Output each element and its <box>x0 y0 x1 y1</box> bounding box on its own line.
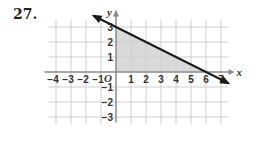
y-tick-label: 2 <box>107 37 113 48</box>
x-tick-label: 5 <box>188 74 194 85</box>
y-axis-arrow-icon <box>113 10 119 17</box>
coordinate-plane: −4−3−2−11234567−3−2−1123Oxy <box>0 0 259 142</box>
x-tick-label: −2 <box>77 74 89 85</box>
x-tick-label: 1 <box>128 74 134 85</box>
x-tick-label: −3 <box>62 74 74 85</box>
x-tick-label: 2 <box>143 74 149 85</box>
x-axis-arrow-icon <box>229 69 235 75</box>
x-tick-label: 3 <box>158 74 164 85</box>
x-tick-label: −4 <box>47 74 59 85</box>
y-axis-label: y <box>105 6 112 18</box>
y-tick-label: −3 <box>102 112 114 123</box>
x-tick-label: 4 <box>173 74 179 85</box>
origin-label: O <box>104 72 112 84</box>
x-axis-label: x <box>236 66 243 78</box>
y-tick-label: −2 <box>102 97 114 108</box>
y-tick-label: 1 <box>107 52 113 63</box>
x-tick-label: 6 <box>203 74 209 85</box>
